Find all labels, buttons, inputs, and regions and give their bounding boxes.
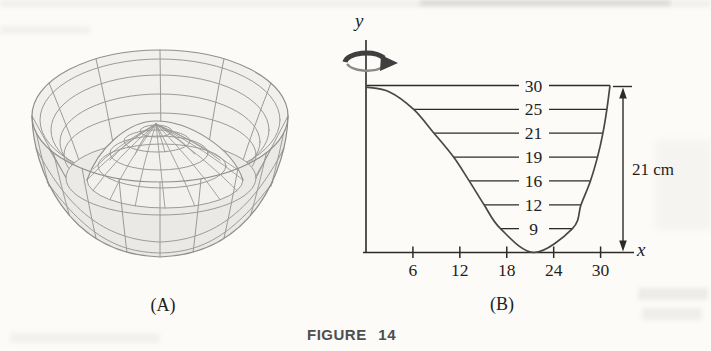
level-label: 25 — [525, 99, 543, 119]
x-tick-label: 12 — [451, 260, 469, 280]
height-dimension-label: 21 cm — [632, 160, 674, 180]
level-label: 19 — [525, 147, 543, 167]
level-label: 30 — [525, 76, 543, 96]
level-label: 16 — [525, 171, 543, 191]
x-tick-label: 24 — [545, 260, 563, 280]
figure-canvas: 6121824303025211916129 — [0, 0, 711, 351]
panel-a-label: (A) — [141, 295, 185, 316]
y-axis-label: y — [355, 10, 363, 32]
level-label: 9 — [529, 219, 538, 239]
surface-plot-3d — [32, 50, 288, 257]
cross-section-plot: 6121824303025211916129 — [363, 40, 634, 280]
rotation-arrow-icon — [345, 53, 398, 71]
x-tick-label: 30 — [592, 260, 610, 280]
panel-b-label: (B) — [480, 294, 524, 315]
x-tick-label: 18 — [498, 260, 516, 280]
level-label: 21 — [525, 123, 543, 143]
level-label: 12 — [525, 195, 543, 215]
x-axis-label: x — [637, 239, 645, 261]
figure-caption: FIGURE 14 — [307, 326, 396, 343]
x-tick-label: 6 — [409, 260, 418, 280]
textbook-figure-page: 6121824303025211916129 y x 21 cm (A) (B)… — [0, 0, 711, 351]
height-dimension-arrow — [613, 87, 632, 252]
profile-curve — [366, 86, 610, 253]
